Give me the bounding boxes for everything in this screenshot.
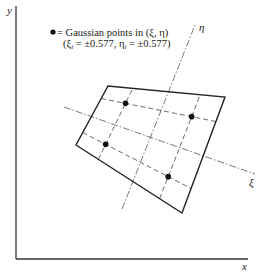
quadrilateral-element xyxy=(76,86,225,213)
eta-const-grid-line xyxy=(101,98,216,121)
gauss-point xyxy=(103,142,109,148)
legend-line-1: = Gaussian points in (ξ, η) xyxy=(57,27,169,39)
legend-l2-mid: = ±0.577, η xyxy=(73,38,124,49)
y-axis-label: y xyxy=(6,4,12,16)
legend-line-2: (ξi = ±0.577, ηi = ±0.577) xyxy=(63,38,171,51)
eta-axis-label: η xyxy=(199,21,204,33)
x-axis-label: x xyxy=(241,260,247,272)
gauss-points xyxy=(103,101,195,180)
isoparametric-diagram: y x ξ η = Gaussian points in (ξ, η) (ξi … xyxy=(0,0,260,272)
gauss-point xyxy=(123,101,129,107)
legend-marker-icon xyxy=(50,29,55,34)
xi-const-grid-line xyxy=(160,95,201,199)
xi-axis-label: ξ xyxy=(249,176,254,189)
xi-axis xyxy=(64,107,255,174)
legend-l2-suffix: = ±0.577) xyxy=(126,38,171,50)
gauss-grid-lines xyxy=(83,88,216,198)
gauss-point xyxy=(165,174,171,180)
gauss-point xyxy=(189,114,195,120)
